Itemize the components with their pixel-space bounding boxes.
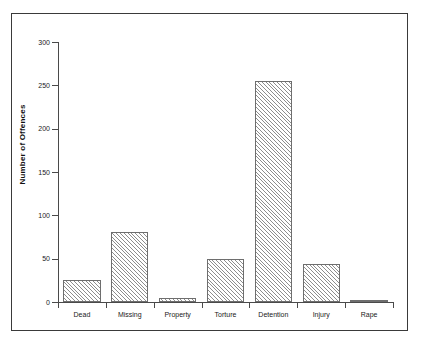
x-tick-mark: [202, 303, 203, 308]
y-axis-title: Number of Offences: [18, 75, 27, 215]
bar-detention: [255, 81, 292, 302]
x-label-rape: Rape: [345, 311, 393, 319]
y-tick-label-wrap: 300: [18, 39, 50, 46]
x-label-torture: Torture: [202, 311, 250, 319]
bar-property: [159, 298, 196, 302]
x-label-missing: Missing: [106, 311, 154, 319]
x-label-injury: Injury: [297, 311, 345, 319]
x-tick-mark: [249, 303, 250, 308]
y-tick-label: 0: [22, 299, 50, 306]
plot-area: [58, 42, 393, 302]
x-tick-mark: [106, 303, 107, 308]
x-tick-mark: [154, 303, 155, 308]
x-label-dead: Dead: [58, 311, 106, 319]
y-tick-label-wrap: 50: [18, 255, 50, 262]
y-tick-label: 300: [22, 39, 50, 46]
x-tick-mark: [297, 303, 298, 308]
x-tick-mark: [345, 303, 346, 308]
y-tick-label-wrap: 0: [18, 299, 50, 306]
x-label-property: Property: [154, 311, 202, 319]
x-axis-line: [58, 302, 394, 303]
bar-injury: [303, 264, 340, 302]
chart-figure: 050100150200250300 Number of Offences De…: [0, 0, 421, 345]
bar-rape: [350, 300, 387, 302]
bar-missing: [111, 232, 148, 302]
x-tick-mark: [58, 303, 59, 308]
x-label-detention: Detention: [249, 311, 297, 319]
x-tick-mark: [393, 303, 394, 308]
bar-torture: [207, 259, 244, 302]
bar-dead: [63, 280, 100, 302]
y-tick-label: 50: [22, 255, 50, 262]
